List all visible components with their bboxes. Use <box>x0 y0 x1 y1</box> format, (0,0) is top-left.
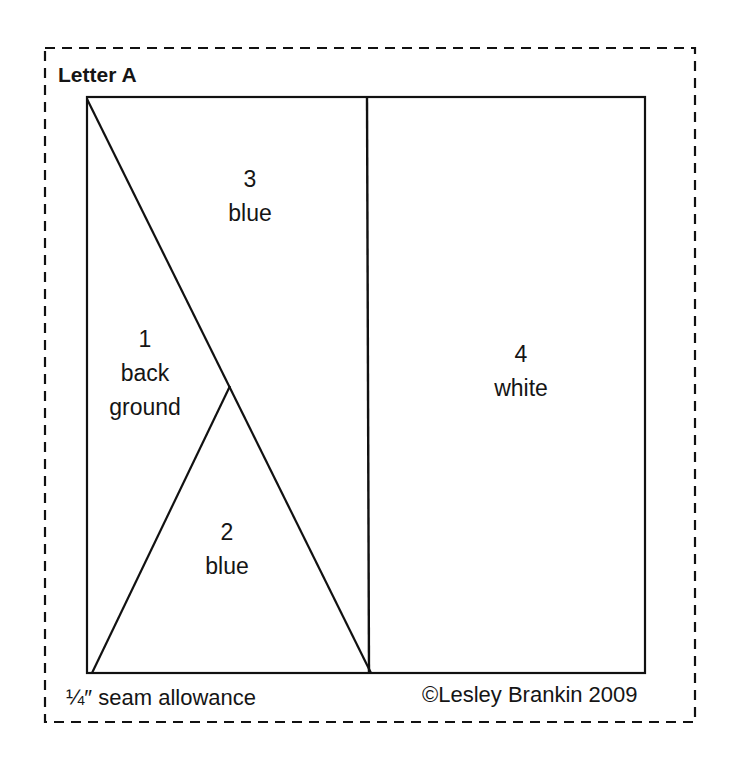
piece-1-label: 1 back ground <box>95 322 195 424</box>
piece-1-color-line2: ground <box>95 390 195 424</box>
piece-4-label: 4 white <box>471 337 571 405</box>
divider-line-section-4 <box>367 97 369 673</box>
piece-3-label: 3 blue <box>200 162 300 230</box>
piece-4-number: 4 <box>471 337 571 371</box>
piece-1-color-line1: back <box>95 356 195 390</box>
piece-3-number: 3 <box>200 162 300 196</box>
seam-allowance-note: ¼″ seam allowance <box>66 685 256 711</box>
piece-2-label: 2 blue <box>177 515 277 583</box>
copyright-notice: ©Lesley Brankin 2009 <box>422 682 638 708</box>
piece-2-color: blue <box>177 549 277 583</box>
piece-4-color: white <box>471 371 571 405</box>
piece-3-color: blue <box>200 196 300 230</box>
piece-1-number: 1 <box>95 322 195 356</box>
piece-2-number: 2 <box>177 515 277 549</box>
pattern-title: Letter A <box>58 63 137 87</box>
